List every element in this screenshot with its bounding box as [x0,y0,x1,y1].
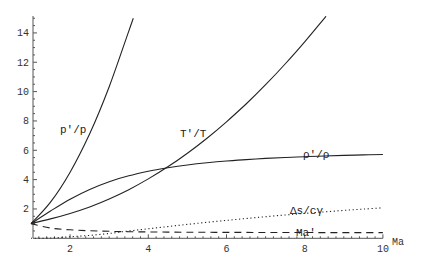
x-tick-label: 10 [377,244,389,255]
y-tick-label: 8 [23,116,29,127]
x-tick-label: 8 [302,244,308,255]
curve-ma [31,224,383,233]
chart: 2468101214246810Ma p'/pT'/Tρ'/ρΔs/cγMa' [0,0,424,269]
curve-labels: p'/pT'/Tρ'/ρΔs/cγMa' [60,124,329,239]
y-tick-label: 12 [17,58,29,69]
curve-tt [31,17,326,224]
x-tick-label: 2 [67,244,73,255]
x-tick-label: 4 [145,244,151,255]
y-tick-label: 14 [17,28,29,39]
series-label: T'/T [180,128,207,140]
curve-sc [31,208,383,239]
series-label: Ma' [296,227,316,239]
curve- [31,155,383,224]
series-label: Δs/cγ [290,205,323,217]
series-label: p'/p [60,124,86,136]
series-label: ρ'/ρ [303,149,329,161]
y-tick-label: 10 [17,87,29,98]
x-tick-label: 6 [223,244,229,255]
x-axis-label: Ma [392,237,404,248]
y-tick-label: 4 [23,175,29,186]
y-tick-label: 6 [23,146,29,157]
y-tick-label: 2 [23,204,29,215]
